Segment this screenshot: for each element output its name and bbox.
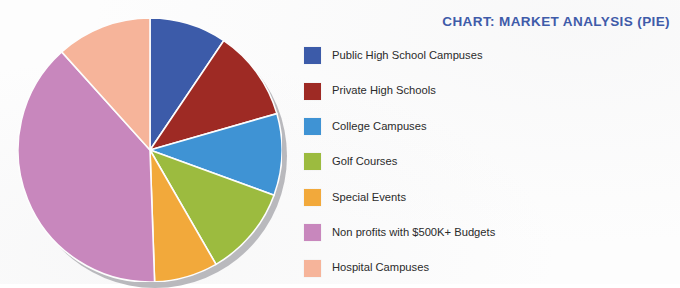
- legend-item-label: Special Events: [332, 192, 406, 203]
- legend-swatch-icon: [304, 189, 321, 206]
- legend-swatch-icon: [304, 47, 321, 64]
- legend-swatch-icon: [304, 224, 321, 241]
- legend-swatch-icon: [304, 83, 321, 100]
- legend-item-label: Hospital Campuses: [332, 262, 429, 273]
- legend-item-label: Golf Courses: [332, 156, 397, 167]
- legend-swatch-icon: [304, 118, 321, 135]
- page-title: CHART: MARKET ANALYSIS (PIE): [442, 14, 670, 29]
- legend-item-college-campuses[interactable]: College Campuses: [304, 109, 664, 144]
- legend-item-label: Public High School Campuses: [332, 50, 483, 61]
- pie-chart: [18, 18, 282, 282]
- legend-item-golf-courses[interactable]: Golf Courses: [304, 144, 664, 179]
- pie-svg: [18, 18, 282, 282]
- legend-item-label: College Campuses: [332, 121, 427, 132]
- legend-item-private-high-schools[interactable]: Private High Schools: [304, 73, 664, 108]
- legend-item-non-profits[interactable]: Non profits with $500K+ Budgets: [304, 215, 664, 250]
- legend-item-label: Non profits with $500K+ Budgets: [332, 227, 495, 238]
- legend-swatch-icon: [304, 260, 321, 277]
- legend-item-label: Private High Schools: [332, 85, 436, 96]
- legend-item-public-high-school-campuses[interactable]: Public High School Campuses: [304, 38, 664, 73]
- legend: Public High School Campuses Private High…: [304, 38, 664, 286]
- pie-slices-container: [18, 18, 282, 282]
- legend-item-special-events[interactable]: Special Events: [304, 180, 664, 215]
- legend-swatch-icon: [304, 153, 321, 170]
- legend-item-hospital-campuses[interactable]: Hospital Campuses: [304, 250, 664, 285]
